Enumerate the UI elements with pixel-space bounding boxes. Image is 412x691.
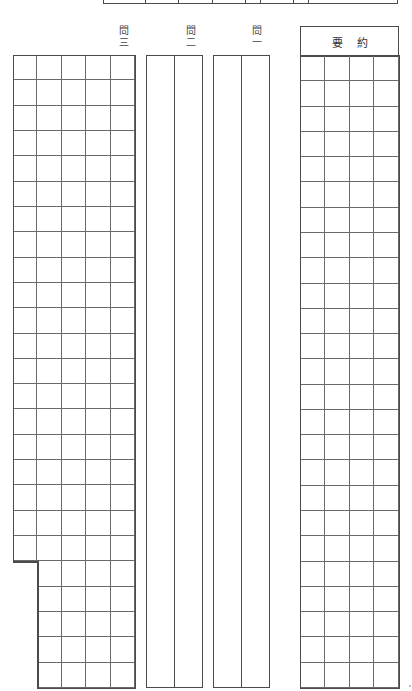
summary-cell[interactable] xyxy=(325,182,350,207)
summary-cell[interactable] xyxy=(350,359,375,384)
summary-cell[interactable] xyxy=(325,385,350,410)
summary-cell[interactable] xyxy=(374,460,399,485)
summary-cell[interactable] xyxy=(325,612,350,637)
question-3-cell[interactable] xyxy=(13,308,37,333)
question-3-cell[interactable] xyxy=(13,435,37,460)
question-3-cell[interactable] xyxy=(37,561,61,586)
summary-cell[interactable] xyxy=(350,562,375,587)
summary-cell[interactable] xyxy=(374,536,399,561)
question-3-cell[interactable] xyxy=(13,232,37,257)
question-3-cell[interactable] xyxy=(111,612,135,637)
summary-cell[interactable] xyxy=(350,81,375,106)
summary-cell[interactable] xyxy=(325,157,350,182)
summary-cell[interactable] xyxy=(374,435,399,460)
question-3-cell[interactable] xyxy=(86,435,110,460)
summary-cell[interactable] xyxy=(325,486,350,511)
question-3-cell[interactable] xyxy=(111,258,135,283)
summary-cell[interactable] xyxy=(350,486,375,511)
summary-cell[interactable] xyxy=(325,107,350,132)
summary-cell[interactable] xyxy=(350,435,375,460)
summary-cell[interactable] xyxy=(325,587,350,612)
summary-cell[interactable] xyxy=(325,663,350,688)
question-3-cell[interactable] xyxy=(111,359,135,384)
summary-cell[interactable] xyxy=(374,663,399,688)
question-3-cell[interactable] xyxy=(62,258,86,283)
question-3-cell[interactable] xyxy=(13,511,37,536)
question-3-cell[interactable] xyxy=(86,637,110,662)
summary-cell[interactable] xyxy=(350,334,375,359)
summary-cell[interactable] xyxy=(374,486,399,511)
question-3-cell[interactable] xyxy=(86,511,110,536)
summary-cell[interactable] xyxy=(300,284,325,309)
question-3-cell[interactable] xyxy=(111,182,135,207)
summary-cell[interactable] xyxy=(300,410,325,435)
question-3-cell[interactable] xyxy=(111,308,135,333)
summary-cell[interactable] xyxy=(300,56,325,81)
question-3-cell[interactable] xyxy=(62,561,86,586)
summary-cell[interactable] xyxy=(300,435,325,460)
summary-cell[interactable] xyxy=(325,435,350,460)
summary-cell[interactable] xyxy=(374,359,399,384)
question-3-cell[interactable] xyxy=(62,359,86,384)
question-3-cell[interactable] xyxy=(111,561,135,586)
summary-cell[interactable] xyxy=(374,182,399,207)
question-3-cell[interactable] xyxy=(62,232,86,257)
summary-cell[interactable] xyxy=(325,208,350,233)
summary-cell[interactable] xyxy=(350,182,375,207)
summary-cell[interactable] xyxy=(350,208,375,233)
question-3-cell[interactable] xyxy=(37,80,61,105)
summary-cell[interactable] xyxy=(374,612,399,637)
summary-cell[interactable] xyxy=(300,258,325,283)
question-3-cell[interactable] xyxy=(37,106,61,131)
summary-cell[interactable] xyxy=(350,284,375,309)
question-3-cell[interactable] xyxy=(86,485,110,510)
question-3-cell[interactable] xyxy=(86,156,110,181)
question-3-cell[interactable] xyxy=(111,511,135,536)
question-3-cell[interactable] xyxy=(111,435,135,460)
question-3-cell[interactable] xyxy=(62,55,86,80)
question-3-cell[interactable] xyxy=(62,80,86,105)
summary-cell[interactable] xyxy=(300,562,325,587)
question-3-cell[interactable] xyxy=(13,460,37,485)
question-3-cell[interactable] xyxy=(13,207,37,232)
summary-cell[interactable] xyxy=(325,258,350,283)
summary-cell[interactable] xyxy=(350,132,375,157)
question-3-cell[interactable] xyxy=(62,663,86,688)
summary-cell[interactable] xyxy=(374,233,399,258)
question-3-cell[interactable] xyxy=(37,612,61,637)
question-3-cell[interactable] xyxy=(86,308,110,333)
summary-cell[interactable] xyxy=(325,637,350,662)
question-3-cell[interactable] xyxy=(111,637,135,662)
question-3-cell[interactable] xyxy=(111,587,135,612)
summary-cell[interactable] xyxy=(374,385,399,410)
question-3-cell[interactable] xyxy=(62,207,86,232)
question-3-cell[interactable] xyxy=(37,131,61,156)
summary-cell[interactable] xyxy=(325,460,350,485)
question-3-cell[interactable] xyxy=(86,612,110,637)
summary-cell[interactable] xyxy=(350,410,375,435)
question-3-cell[interactable] xyxy=(37,511,61,536)
summary-cell[interactable] xyxy=(325,132,350,157)
question-3-cell[interactable] xyxy=(37,637,61,662)
question-3-cell[interactable] xyxy=(37,485,61,510)
question-3-cell[interactable] xyxy=(62,485,86,510)
summary-cell[interactable] xyxy=(350,587,375,612)
summary-cell[interactable] xyxy=(300,208,325,233)
question-3-cell[interactable] xyxy=(62,409,86,434)
question-3-cell[interactable] xyxy=(62,511,86,536)
summary-cell[interactable] xyxy=(374,562,399,587)
question-3-cell[interactable] xyxy=(86,106,110,131)
question-3-cell[interactable] xyxy=(86,359,110,384)
question-3-cell[interactable] xyxy=(37,409,61,434)
summary-cell[interactable] xyxy=(350,107,375,132)
question-3-cell[interactable] xyxy=(62,182,86,207)
question-3-cell[interactable] xyxy=(111,156,135,181)
summary-cell[interactable] xyxy=(300,663,325,688)
question-3-cell[interactable] xyxy=(86,384,110,409)
question-3-cell[interactable] xyxy=(37,536,61,561)
summary-cell[interactable] xyxy=(350,385,375,410)
question-3-cell[interactable] xyxy=(111,55,135,80)
question-3-cell[interactable] xyxy=(86,536,110,561)
summary-cell[interactable] xyxy=(300,107,325,132)
summary-cell[interactable] xyxy=(350,233,375,258)
